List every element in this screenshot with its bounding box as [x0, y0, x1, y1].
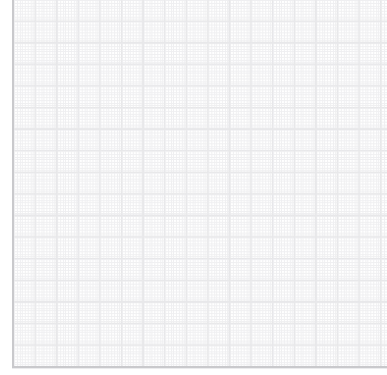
grid-accent-lines [14, 0, 387, 366]
canvas-bottom-rule-shadow [12, 368, 387, 369]
app-root [0, 0, 387, 375]
drawing-canvas[interactable] [14, 0, 387, 366]
canvas-left-rule [12, 0, 14, 368]
